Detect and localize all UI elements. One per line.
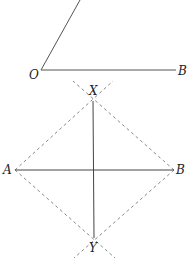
label-b-bottom: B xyxy=(175,163,185,177)
label-x: X xyxy=(88,84,98,98)
geometry-diagram: O B X Y A B xyxy=(0,0,188,258)
label-y: Y xyxy=(89,241,98,255)
segment-xy xyxy=(93,101,94,238)
bisector-figure: X Y A B xyxy=(2,81,185,258)
ray-oblique xyxy=(41,0,80,70)
construction-line-ax xyxy=(15,81,113,170)
angle-figure: O B xyxy=(29,0,187,82)
label-o: O xyxy=(29,68,39,82)
construction-line-ay xyxy=(15,170,115,258)
label-a: A xyxy=(2,163,12,177)
label-b-top: B xyxy=(177,64,187,78)
